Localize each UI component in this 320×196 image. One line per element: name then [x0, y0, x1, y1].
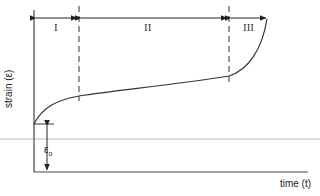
creep-curve	[34, 19, 267, 124]
creep-curve-diagram	[0, 0, 320, 196]
initial-strain-label: εo	[44, 144, 52, 157]
stage-III-label: III	[243, 21, 254, 33]
x-axis-label: time (t)	[280, 178, 311, 189]
epsilon-subscript: o	[48, 150, 52, 157]
y-axis-label: strain (ε)	[3, 70, 14, 108]
stage-I-label: I	[54, 21, 58, 33]
stage-II-label: II	[144, 21, 151, 33]
x-axis-label-text: time (t)	[280, 178, 311, 189]
